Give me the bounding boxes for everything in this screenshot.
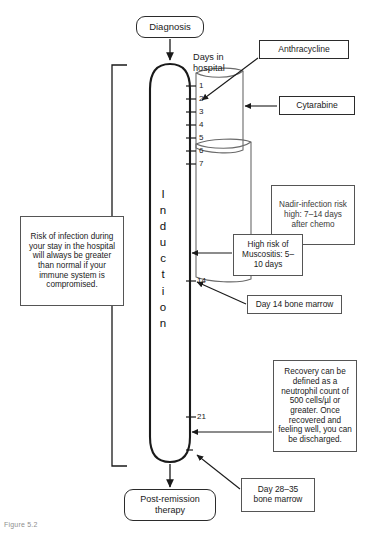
induction-letter: d (155, 218, 171, 234)
day-tick-label: 2 (199, 94, 203, 103)
recovery-text: Recovery can be defined as a neutrophil … (278, 367, 352, 444)
mucositis-note[interactable]: High risk of Muscositis: 5–10 days (233, 234, 303, 276)
mucositis-text: High risk of Muscositis: 5–10 days (238, 240, 298, 269)
days-in-hospital-axis-label: Days in hospital (193, 52, 257, 74)
post-remission-label: Post-remission therapy (140, 494, 200, 515)
day14-marrow-text: Day 14 bone marrow (256, 300, 334, 310)
day28-marrow-note[interactable]: Day 28–35 bone marrow (241, 478, 315, 512)
induction-letter: I (155, 186, 171, 202)
post-remission-terminator[interactable]: Post-remission therapy (124, 489, 216, 521)
nadir-text: Nadir-infection risk high: 7–14 days aft… (276, 200, 350, 229)
infection-risk-note[interactable]: Risk of infection during your stay in th… (20, 216, 124, 306)
induction-letter: n (155, 202, 171, 218)
infection-risk-text: Risk of infection during your stay in th… (25, 232, 119, 290)
day-tick-label: 4 (199, 120, 203, 129)
cytarabine-callout[interactable]: Cytarabine (279, 96, 355, 115)
day-tick-label: 3 (199, 107, 203, 116)
day-tick-label: 21 (197, 412, 206, 421)
induction-phase-label: I n d u c t i o n (155, 186, 171, 331)
day-tick-label: 5 (199, 133, 203, 142)
day-tick-label: 6 (199, 146, 203, 155)
induction-letter: c (155, 250, 171, 266)
day28-marrow-text: Day 28–35 bone marrow (254, 485, 303, 505)
induction-letter: t (155, 266, 171, 282)
cytarabine-label: Cytarabine (296, 100, 338, 110)
figure-canvas: Diagnosis Days in hospital I n d u c t i… (0, 0, 366, 540)
induction-letter: i (155, 283, 171, 299)
arrow-day14-marrow (197, 282, 246, 304)
day-tick-label: 1 (199, 81, 203, 90)
diagnosis-label: Diagnosis (149, 21, 191, 32)
day-tick-label: 7 (199, 159, 203, 168)
anthracycline-callout[interactable]: Anthracycline (259, 40, 349, 59)
day14-marrow-note[interactable]: Day 14 bone marrow (247, 295, 342, 314)
figure-caption: Figure 5.2 (4, 521, 38, 528)
induction-letter: u (155, 234, 171, 250)
day-tick-label: 14 (197, 276, 206, 285)
anthracycline-label: Anthracycline (278, 44, 330, 54)
induction-letter: o (155, 299, 171, 315)
arrow-day28-marrow (197, 455, 240, 489)
induction-letter: n (155, 315, 171, 331)
diagnosis-terminator[interactable]: Diagnosis (136, 16, 204, 38)
recovery-note[interactable]: Recovery can be defined as a neutrophil … (273, 360, 357, 452)
